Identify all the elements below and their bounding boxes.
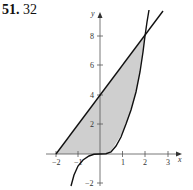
y-axis-arrow-icon [98,12,103,18]
svg-text:y: y [90,9,95,18]
svg-text:−2: −2 [52,158,61,167]
svg-text:2: 2 [143,158,147,167]
svg-text:3: 3 [166,158,170,167]
svg-text:−2: −2 [85,179,94,188]
svg-text:x: x [177,155,182,164]
svg-text:4: 4 [90,91,94,100]
svg-text:2: 2 [90,120,94,129]
svg-text:6: 6 [90,61,94,70]
graph: −2 −1 1 2 3 x y 8 6 4 2 −2 [0,0,193,190]
svg-text:8: 8 [90,32,94,41]
svg-text:1: 1 [121,158,125,167]
